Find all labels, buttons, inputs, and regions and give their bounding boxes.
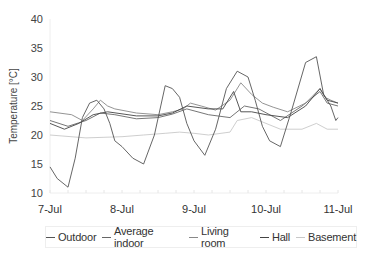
legend-label: Hall (272, 231, 290, 243)
series-lines (50, 57, 338, 188)
legend-swatch-average-indoor (102, 237, 111, 238)
legend-item-living-room: Living room (189, 225, 254, 249)
legend-label: Basement (308, 231, 356, 243)
y-axis-label: Temperature [°C] (8, 68, 19, 144)
y-tick-label: 10 (31, 187, 43, 199)
y-tick-label: 35 (31, 42, 43, 54)
legend-swatch-basement (296, 237, 305, 238)
y-tick-label: 25 (31, 100, 43, 112)
y-tick-label: 40 (31, 13, 43, 25)
series-line-outdoor (50, 57, 338, 188)
legend-item-outdoor: Outdoor (46, 231, 96, 243)
legend-swatch-living-room (189, 237, 198, 238)
series-line-basement (50, 118, 338, 138)
y-tick-label: 15 (31, 158, 43, 170)
legend-item-basement: Basement (296, 231, 356, 243)
y-tick-label: 20 (31, 129, 43, 141)
y-axis: 10152025303540 (31, 13, 50, 199)
x-axis: 7-Jul8-Jul9-Jul10-Jul11-Jul (38, 190, 353, 215)
chart-legend: Outdoor Average indoor Living room Hall … (45, 226, 357, 248)
x-tick-label: 10-Jul (251, 203, 281, 215)
legend-item-hall: Hall (260, 231, 290, 243)
x-tick-label: 9-Jul (182, 203, 206, 215)
y-tick-label: 30 (31, 71, 43, 83)
legend-label: Average indoor (114, 225, 183, 249)
x-tick-label: 11-Jul (323, 203, 352, 215)
x-tick-label: 7-Jul (38, 203, 62, 215)
legend-label: Living room (201, 225, 254, 249)
legend-swatch-hall (260, 237, 269, 238)
legend-item-average-indoor: Average indoor (102, 225, 183, 249)
temperature-line-chart: 10152025303540 7-Jul8-Jul9-Jul10-Jul11-J… (0, 0, 368, 225)
x-tick-label: 8-Jul (110, 203, 134, 215)
legend-label: Outdoor (58, 231, 96, 243)
legend-swatch-outdoor (46, 237, 55, 238)
